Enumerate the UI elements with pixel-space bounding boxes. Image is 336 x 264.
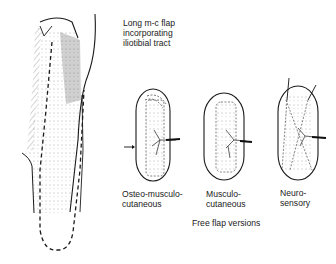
flap-label-line: Neuro- bbox=[280, 188, 310, 198]
title-line-1: Long m-c flap bbox=[123, 18, 175, 28]
flap-label-line: Musculo- bbox=[206, 189, 246, 199]
flap-label-line: cutaneous bbox=[122, 199, 183, 209]
flap-label-line: sensory bbox=[280, 198, 310, 208]
flap-osteo-musculo-cutaneous-illustration bbox=[124, 89, 180, 181]
flap-label-line: cutaneous bbox=[206, 199, 246, 209]
flap-label-neuro-sensory: Neuro- sensory bbox=[280, 188, 310, 208]
title-line-2: incorporating bbox=[123, 28, 175, 38]
thigh-illustration bbox=[22, 14, 95, 250]
flap-label-osteo-musculo-cutaneous: Osteo-musculo- cutaneous bbox=[122, 189, 183, 209]
flap-neuro-sensory-illustration bbox=[278, 78, 326, 180]
flap-label-line: Osteo-musculo- bbox=[122, 189, 183, 199]
flap-musculo-cutaneous-illustration bbox=[204, 93, 252, 180]
flap-label-musculo-cutaneous: Musculo- cutaneous bbox=[206, 189, 246, 209]
title-label: Long m-c flap incorporating iliotibial t… bbox=[123, 18, 175, 48]
caption-free-flap-versions: Free flap versions bbox=[192, 218, 260, 228]
title-line-3: iliotibial tract bbox=[123, 38, 175, 48]
